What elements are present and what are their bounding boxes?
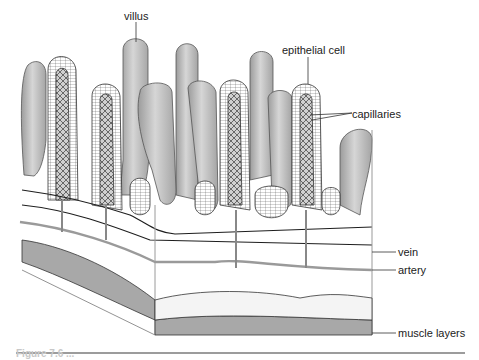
label-artery: artery [398,264,426,276]
villi-diagram [0,0,479,360]
label-capillaries: capillaries [352,108,401,120]
label-muscle-layers: muscle layers [398,327,465,339]
muscle-layers [22,240,372,335]
label-vein: vein [398,246,418,258]
figure-caption: Figure 7.6 ... [16,348,74,359]
label-villus: villus [124,10,148,22]
label-epithelial-cell: epithelial cell [282,44,345,56]
